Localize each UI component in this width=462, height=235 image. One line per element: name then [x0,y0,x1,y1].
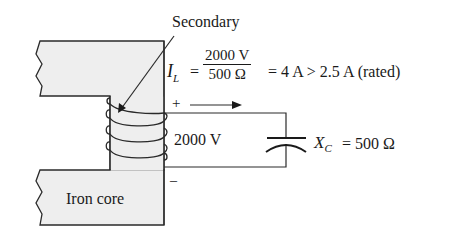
current-fraction: 2000 V 500 Ω [203,48,251,82]
plus-polarity: + [172,96,180,111]
capacitor-symbol-label: XC [314,134,332,154]
current-subscript: L [173,72,179,84]
voltage-label: 2000 V [174,132,221,148]
iron-core-label: Iron core [66,191,124,207]
current-arrow [190,101,242,109]
minus-polarity: – [170,174,177,188]
fraction-denominator: 500 Ω [203,65,251,82]
secondary-label: Secondary [172,14,240,30]
capacitor-subscript: C [324,142,331,154]
current-symbol: IL [167,62,179,84]
fraction-numerator: 2000 V [203,48,251,65]
capacitor-value: = 500 Ω [342,136,395,152]
current-result: = 4 A > 2.5 A (rated) [268,64,400,80]
equals-sign: = [190,64,199,80]
